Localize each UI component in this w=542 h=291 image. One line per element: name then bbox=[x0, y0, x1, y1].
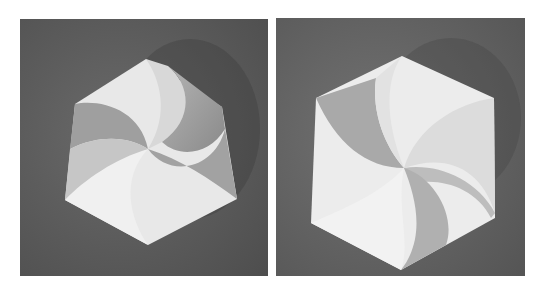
paper-fold-right-image bbox=[276, 18, 525, 276]
photo-left bbox=[20, 19, 268, 276]
paper-fold-left-image bbox=[20, 19, 268, 276]
photo-right bbox=[276, 18, 525, 276]
